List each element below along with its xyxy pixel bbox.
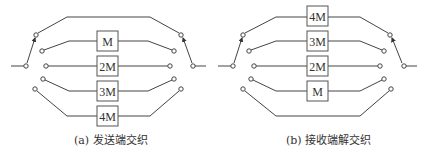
commutator-arm-right xyxy=(392,38,402,63)
output-terminal xyxy=(191,64,195,68)
box-label: M xyxy=(312,85,323,99)
box-label: 4M xyxy=(99,110,116,124)
box-label: 2M xyxy=(309,60,326,74)
caption-a: (a) 发送端交织 xyxy=(74,131,148,147)
box-label: M xyxy=(102,35,113,49)
box-label: 3M xyxy=(99,85,116,99)
input-terminal xyxy=(24,64,28,68)
caption-b: (b) 接收端解交织 xyxy=(286,131,371,147)
box-label: 4M xyxy=(309,10,326,24)
box-label: 2M xyxy=(99,60,116,74)
commutator-arm-right xyxy=(183,38,192,63)
commutator-arm-left xyxy=(27,38,35,63)
box-label: 3M xyxy=(309,35,326,49)
commutator-arm-left xyxy=(234,38,242,63)
